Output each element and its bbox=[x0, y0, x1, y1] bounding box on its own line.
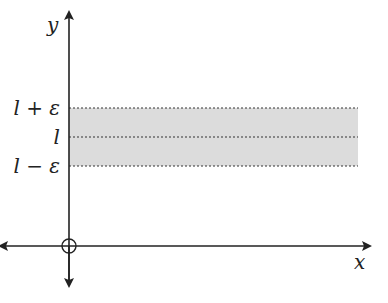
epsilon-band-diagram: y x l + ε l l − ε bbox=[0, 0, 388, 303]
y-axis-label: y bbox=[46, 13, 59, 37]
lower-bound-label: l − ε bbox=[13, 154, 60, 178]
limit-label: l bbox=[54, 125, 60, 149]
upper-bound-label: l + ε bbox=[13, 96, 60, 120]
x-axis-label: x bbox=[354, 250, 365, 274]
